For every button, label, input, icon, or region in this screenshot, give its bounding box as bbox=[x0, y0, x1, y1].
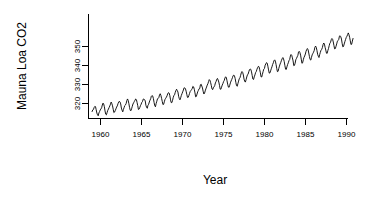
x-tick-label: 1985 bbox=[297, 130, 315, 139]
x-tick-label: 1980 bbox=[256, 130, 274, 139]
plot-canvas: 320330340350 196019651970197519801985199… bbox=[0, 0, 368, 202]
y-tick-label: 350 bbox=[73, 39, 82, 53]
x-axis-title: Year bbox=[203, 173, 227, 187]
x-tick-label: 1960 bbox=[92, 130, 110, 139]
y-tick-label: 330 bbox=[73, 77, 82, 91]
y-tick-label: 320 bbox=[73, 96, 82, 110]
x-tick-label: 1965 bbox=[133, 130, 151, 139]
mauna-loa-co2-figure: 320330340350 196019651970197519801985199… bbox=[0, 0, 368, 202]
y-axis-title: Mauna Loa CO2 bbox=[15, 22, 29, 110]
figure-background bbox=[0, 0, 368, 202]
x-tick-label: 1975 bbox=[215, 130, 233, 139]
x-tick-label: 1970 bbox=[174, 130, 192, 139]
y-tick-label: 340 bbox=[73, 58, 82, 72]
x-tick-label: 1990 bbox=[338, 130, 356, 139]
